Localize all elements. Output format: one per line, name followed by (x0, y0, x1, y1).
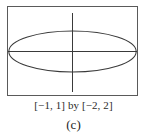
graph-viewport (7, 6, 138, 96)
plot-area (8, 7, 137, 95)
figure-panel: [−1, 1] by [−2, 2] (c) (0, 0, 147, 138)
viewing-window-caption: [−1, 1] by [−2, 2] (0, 98, 147, 112)
figure-label: (c) (0, 117, 147, 133)
